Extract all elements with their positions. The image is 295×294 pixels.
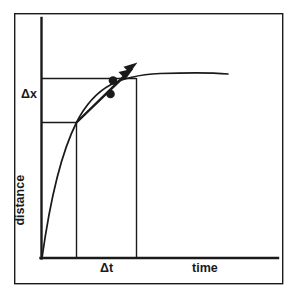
y-axis-label: distance [14,175,27,226]
x-axis-label: time [192,262,218,275]
figure-container: Δx Δt time distance [0,0,295,294]
delta-x-label: Δx [21,88,37,101]
outer-border [15,14,283,284]
distance-time-graph [0,0,295,294]
delta-t-label: Δt [100,262,113,275]
point-lower [106,90,115,99]
point-upper [109,76,118,85]
